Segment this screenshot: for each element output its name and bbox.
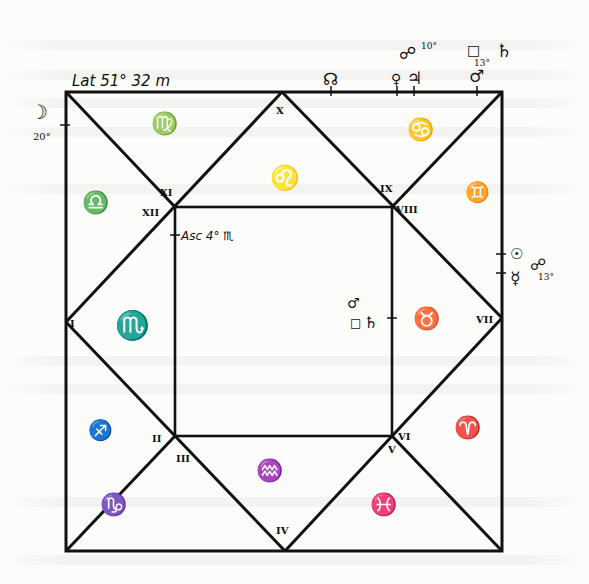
inner-mars-glyph: ♂	[347, 295, 360, 311]
opposition-aspect-glyph: ☍	[399, 43, 416, 63]
jupiter-glyph: ♃	[407, 68, 422, 88]
house-numeral-XI: XI	[160, 187, 173, 198]
sign-sagittarius: ♐	[88, 418, 113, 442]
house-numeral-II: II	[152, 433, 162, 444]
house-numeral-IX: IX	[380, 183, 393, 194]
sign-aries: ♈	[454, 415, 481, 440]
ascendant-label: Asc 4° ♏	[180, 229, 234, 243]
north-node-glyph: ☊	[323, 69, 338, 89]
mercury-glyph: ☿	[510, 268, 520, 288]
sign-pisces: ♓	[370, 492, 397, 517]
venus-glyph: ♀	[391, 71, 401, 87]
mars-glyph: ♂	[469, 66, 484, 86]
moon-degree: 20°	[33, 131, 51, 142]
house-numeral-XII: XII	[142, 207, 159, 218]
sign-libra: ♎	[82, 190, 109, 215]
sign-leo: ♌	[270, 164, 300, 192]
house-numeral-X: X	[276, 105, 284, 116]
house-numeral-VI: VI	[397, 431, 411, 442]
sign-aquarius: ♒	[256, 458, 283, 483]
sun-glyph: ☉	[510, 245, 523, 263]
house-numeral-VIII: VIII	[395, 204, 418, 215]
house-numeral-IV: IV	[276, 525, 289, 536]
moon-glyph: ☽	[30, 100, 48, 124]
square-degree: 13°	[474, 58, 490, 68]
sign-virgo: ♍	[151, 111, 178, 136]
inner-square-aspect-glyph: □	[350, 316, 361, 330]
diagonal-bottom-right	[392, 436, 502, 551]
latitude-label: Lat 51° 32 m	[72, 72, 170, 90]
opposition-degree: 10°	[421, 41, 437, 51]
saturn-glyph: ♄	[496, 40, 512, 61]
sign-taurus: ♉	[413, 306, 440, 331]
right-aspect-degree: 13°	[538, 272, 554, 282]
horoscope-chart: Lat 51° 32 m I II III IV V VI VII VIII I…	[0, 0, 589, 584]
house-numeral-III: III	[176, 453, 190, 464]
sign-cancer: ♋	[407, 117, 434, 142]
sign-capricorn: ♑	[100, 492, 127, 517]
square-aspect-glyph: □	[467, 42, 480, 58]
house-numeral-V: V	[387, 444, 396, 455]
house-numeral-I: I	[70, 318, 75, 329]
sign-scorpio: ♏	[115, 309, 150, 342]
house-numeral-VII: VII	[475, 314, 493, 325]
inner-saturn-glyph: ♄	[364, 313, 378, 332]
sign-gemini: ♊	[465, 180, 490, 204]
